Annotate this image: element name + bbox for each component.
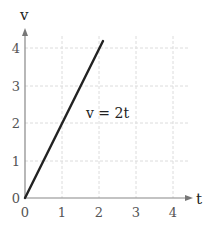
x-tick-0: 0 bbox=[21, 205, 29, 220]
equation-label: v = 2t bbox=[85, 105, 129, 121]
x-axis-label: t bbox=[196, 190, 202, 208]
x-tick-3: 3 bbox=[132, 205, 140, 220]
x-tick-4: 4 bbox=[169, 205, 177, 220]
y-tick-labels: 0 1 2 3 4 bbox=[12, 41, 20, 206]
velocity-time-chart: v t 0 1 2 3 4 0 1 2 3 4 v = 2t bbox=[0, 0, 210, 229]
y-tick-0: 0 bbox=[12, 191, 20, 206]
y-tick-4: 4 bbox=[12, 41, 20, 56]
y-axis-arrow-icon bbox=[22, 28, 28, 36]
y-tick-2: 2 bbox=[12, 116, 20, 131]
y-tick-3: 3 bbox=[12, 79, 20, 94]
x-axis-arrow-icon bbox=[185, 195, 193, 201]
x-tick-labels: 0 1 2 3 4 bbox=[21, 205, 177, 220]
y-tick-1: 1 bbox=[12, 154, 20, 169]
x-tick-1: 1 bbox=[58, 205, 66, 220]
x-tick-2: 2 bbox=[95, 205, 103, 220]
y-axis-label: v bbox=[19, 6, 29, 24]
